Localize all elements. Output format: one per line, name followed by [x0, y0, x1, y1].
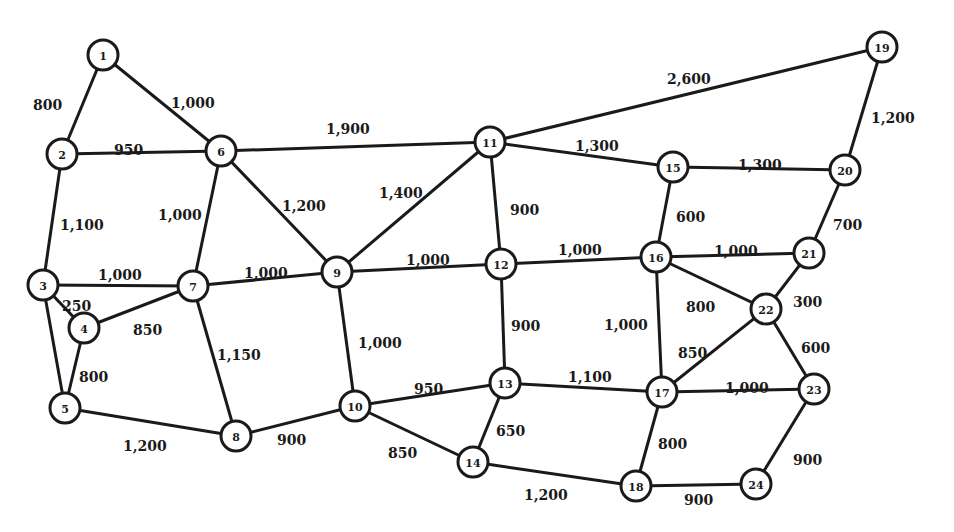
node-14: 14: [458, 447, 488, 477]
edge-weight-label: 800: [79, 369, 108, 385]
edge-weight-label: 1,000: [725, 380, 769, 396]
node-6: 6: [206, 136, 236, 166]
edge-weight-label: 1,200: [524, 487, 568, 503]
edge-weight-label: 850: [133, 322, 162, 338]
node-label: 19: [874, 42, 889, 55]
edge-weight-label: 250: [62, 298, 91, 314]
edge-weight-label: 850: [678, 345, 707, 361]
node-label: 14: [465, 457, 481, 470]
edge-12-16: [501, 257, 656, 264]
edge-6-11: [221, 142, 490, 151]
node-label: 21: [801, 248, 816, 261]
edge-weight-label: 600: [676, 209, 705, 225]
edge-weight-label: 700: [833, 217, 862, 233]
edge-weight-label: 1,150: [217, 347, 261, 363]
edge-weight-label: 1,200: [123, 438, 167, 454]
node-label: 13: [497, 378, 512, 391]
node-9: 9: [322, 257, 352, 287]
edge-3-7: [43, 285, 193, 286]
network-graph-svg: 8001,0009501,1001,0001,9001,2001,0002508…: [0, 0, 954, 532]
node-7: 7: [178, 271, 208, 301]
node-22: 22: [751, 294, 781, 324]
node-1: 1: [88, 40, 118, 70]
node-label: 16: [648, 252, 664, 265]
edge-weight-label: 300: [793, 294, 822, 310]
edge-weight-label: 950: [414, 381, 443, 397]
edge-weight-label: 2,600: [667, 71, 711, 87]
edge-23-24: [756, 389, 814, 484]
edge-weight-label: 1,000: [171, 95, 215, 111]
node-21: 21: [794, 238, 824, 268]
edge-19-20: [845, 47, 882, 170]
node-label: 5: [61, 403, 69, 416]
node-17: 17: [647, 377, 677, 407]
edge-weight-label: 1,200: [282, 198, 326, 214]
node-11: 11: [475, 127, 505, 157]
edge-weight-label: 1,300: [575, 138, 619, 154]
edge-9-10: [337, 272, 355, 406]
node-label: 3: [39, 280, 47, 293]
node-10: 10: [340, 391, 370, 421]
node-19: 19: [867, 32, 897, 62]
node-label: 22: [758, 304, 773, 317]
edge-weight-label: 1,000: [558, 242, 602, 258]
node-16: 16: [641, 242, 671, 272]
node-label: 8: [232, 431, 240, 444]
edges-layer: [43, 47, 882, 486]
node-20: 20: [830, 155, 860, 185]
edge-weight-label: 1,000: [406, 252, 450, 268]
node-13: 13: [490, 368, 520, 398]
edge-weight-label: 1,100: [60, 217, 104, 233]
edge-14-18: [473, 462, 636, 486]
node-15: 15: [658, 152, 688, 182]
node-label: 15: [665, 162, 680, 175]
node-3: 3: [28, 270, 58, 300]
node-12: 12: [486, 249, 516, 279]
edge-weight-label: 1,100: [568, 369, 612, 385]
node-label: 2: [58, 149, 66, 162]
network-diagram: 8001,0009501,1001,0001,9001,2001,0002508…: [0, 0, 954, 532]
node-18: 18: [621, 471, 651, 501]
edge-weight-label: 900: [684, 492, 713, 508]
edge-11-19: [490, 47, 882, 142]
node-4: 4: [69, 313, 99, 343]
node-label: 20: [837, 165, 853, 178]
node-label: 4: [80, 323, 88, 336]
node-label: 1: [99, 50, 107, 63]
edge-weight-label: 1,900: [326, 121, 370, 137]
edge-11-12: [490, 142, 501, 264]
edge-weight-label: 1,000: [158, 207, 202, 223]
node-label: 24: [748, 479, 764, 492]
node-2: 2: [47, 139, 77, 169]
edge-weight-label: 800: [686, 299, 715, 315]
edge-weight-label: 900: [510, 202, 539, 218]
edge-5-8: [65, 408, 236, 436]
edge-weight-label: 800: [658, 436, 687, 452]
edge-weight-label: 900: [277, 432, 306, 448]
node-5: 5: [50, 393, 80, 423]
node-label: 10: [347, 401, 363, 414]
edge-weight-label: 1,000: [244, 265, 288, 281]
edge-weight-label: 1,400: [379, 185, 423, 201]
edge-weight-label: 900: [793, 452, 822, 468]
node-23: 23: [799, 374, 829, 404]
edge-weight-label: 800: [33, 97, 62, 113]
edge-weight-label: 1,200: [871, 110, 915, 126]
node-24: 24: [741, 469, 771, 499]
edge-weight-label: 950: [114, 142, 143, 158]
edge-weight-label: 1,000: [714, 243, 758, 259]
node-label: 9: [333, 267, 341, 280]
node-label: 12: [493, 259, 508, 272]
node-label: 17: [654, 387, 669, 400]
edge-18-24: [636, 484, 756, 486]
edge-weight-label: 650: [496, 423, 525, 439]
node-label: 7: [189, 281, 197, 294]
node-8: 8: [221, 421, 251, 451]
edge-weight-label: 1,300: [738, 157, 782, 173]
node-label: 11: [482, 137, 497, 150]
edge-weight-label: 1,000: [358, 335, 402, 351]
edge-12-13: [501, 264, 505, 383]
edge-weight-label: 1,000: [604, 317, 648, 333]
edge-weight-label: 850: [388, 445, 417, 461]
edge-weight-label: 600: [801, 340, 830, 356]
